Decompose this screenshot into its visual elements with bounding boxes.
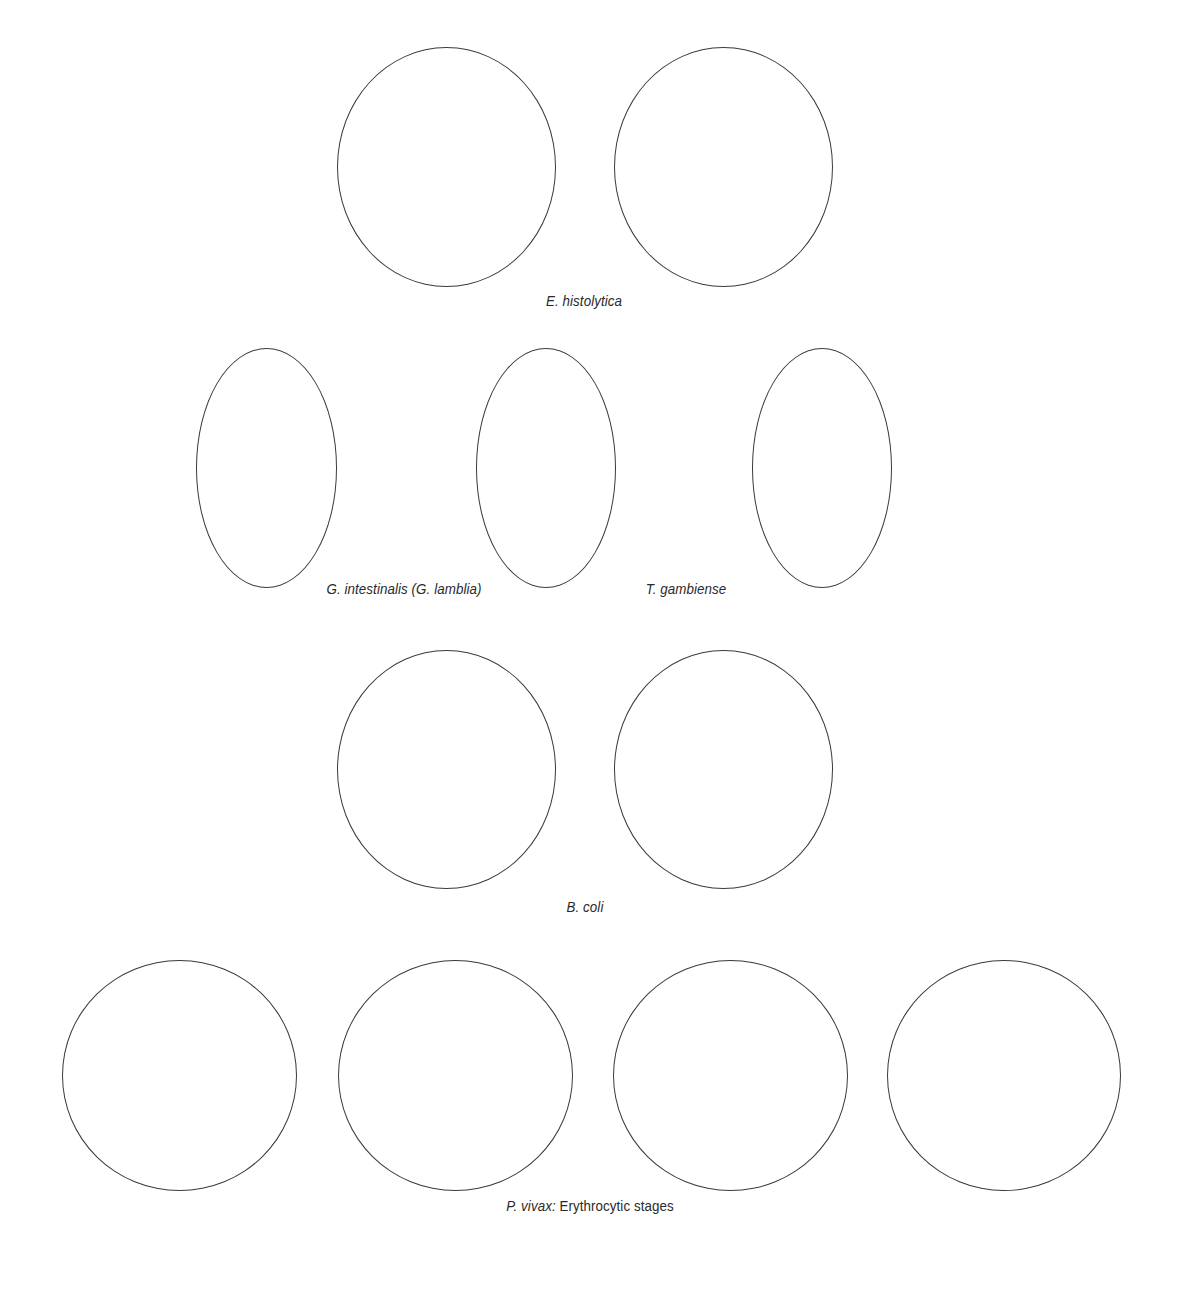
figure-caption: B. coli	[567, 898, 604, 916]
figure-caption: G. intestinalis (G. lamblia)	[326, 580, 481, 598]
caption-stage: Erythrocytic stages	[556, 1197, 674, 1214]
drawing-circle	[62, 960, 297, 1191]
figure-caption: T. gambiense	[646, 580, 727, 598]
drawing-circle	[338, 960, 573, 1191]
drawing-circle	[752, 348, 892, 588]
drawing-circle	[476, 348, 616, 588]
drawing-circle	[337, 650, 556, 889]
drawing-circle	[196, 348, 337, 588]
bleed-through-text	[42, 48, 46, 68]
drawing-circle	[337, 47, 556, 287]
drawing-circle	[614, 47, 833, 287]
drawing-circle	[614, 650, 833, 889]
figure-caption: E. histolytica	[546, 292, 622, 310]
drawing-circle	[613, 960, 848, 1191]
figure-caption: P. vivax: Erythrocytic stages	[506, 1197, 673, 1215]
caption-species: P. vivax:	[506, 1197, 555, 1214]
drawing-circle	[887, 960, 1121, 1191]
